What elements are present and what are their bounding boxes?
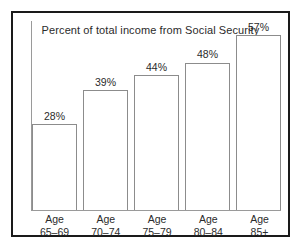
plot-area: 28% 39% 44% 48% 57% <box>31 21 281 211</box>
bar-rect <box>185 63 230 210</box>
bar-rect <box>32 124 77 210</box>
x-tick-line2: 65–69 <box>32 226 77 239</box>
bar-group-age-70-74: 39% <box>83 21 128 210</box>
x-tick-label-age-65-69: Age 65–69 <box>32 213 77 239</box>
chart-figure: Percent of total income from Social Secu… <box>11 11 290 237</box>
x-tick-line1: Age <box>199 213 218 225</box>
bar-value-label: 44% <box>146 62 167 73</box>
bar-group-age-80-84: 48% <box>185 21 230 210</box>
bar-rect <box>134 75 179 210</box>
bar-series: 28% 39% 44% 48% 57% <box>32 21 281 210</box>
x-tick-label-age-85-plus: Age 85+ <box>237 213 282 239</box>
x-tick-label-age-75-79: Age 75–79 <box>135 213 180 239</box>
x-tick-line1: Age <box>96 213 115 225</box>
bar-value-label: 39% <box>95 77 116 88</box>
x-tick-line2: 75–79 <box>135 226 180 239</box>
bar-value-label: 48% <box>197 49 218 60</box>
x-tick-line1: Age <box>148 213 167 225</box>
x-tick-label-age-70-74: Age 70–74 <box>83 213 128 239</box>
x-tick-line2: 80–84 <box>186 226 231 239</box>
bar-group-age-85-plus: 57% <box>236 21 281 210</box>
x-axis-line <box>31 210 281 211</box>
x-tick-line1: Age <box>250 213 269 225</box>
bar-rect <box>236 35 281 210</box>
bar-value-label: 28% <box>44 111 65 122</box>
x-tick-line1: Age <box>45 213 64 225</box>
bar-rect <box>83 90 128 210</box>
bar-group-age-75-79: 44% <box>134 21 179 210</box>
bar-value-label: 57% <box>248 22 269 33</box>
x-tick-label-age-80-84: Age 80–84 <box>186 213 231 239</box>
x-axis-tick-labels: Age 65–69 Age 70–74 Age 75–79 Age 80–84 … <box>32 213 282 239</box>
x-tick-line2: 85+ <box>237 226 282 239</box>
bar-group-age-65-69: 28% <box>32 21 77 210</box>
x-tick-line2: 70–74 <box>83 226 128 239</box>
